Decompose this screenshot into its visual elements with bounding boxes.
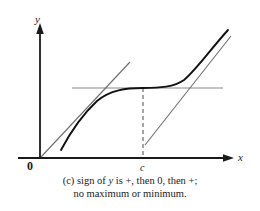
right-tangent-line xyxy=(145,36,231,145)
caption-line-1-prefix: (c) sign of xyxy=(63,175,109,186)
left-tangent-line xyxy=(41,62,130,157)
figure-container: y x 0 c (c) sign of y is +, then 0, then… xyxy=(0,0,260,211)
caption-line-1-suffix: is +, then 0, then +; xyxy=(113,175,197,186)
caption-line-2: no maximum or minimum. xyxy=(0,187,260,200)
x-axis-label: x xyxy=(238,152,243,163)
function-curve xyxy=(61,30,228,150)
caption-line-1: (c) sign of y is +, then 0, then +; xyxy=(0,174,260,187)
x-axis-arrowhead-icon xyxy=(223,154,234,162)
y-axis-label: y xyxy=(35,14,40,25)
origin-label: 0 xyxy=(27,160,33,172)
c-tick-label: c xyxy=(140,163,144,173)
figure-caption: (c) sign of y is +, then 0, then +; no m… xyxy=(0,174,260,200)
